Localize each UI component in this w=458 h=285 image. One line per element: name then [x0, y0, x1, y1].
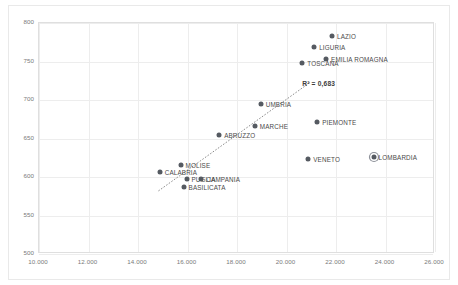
- data-point[interactable]: [312, 44, 317, 49]
- x-axis-tick-label: 20.000: [276, 258, 296, 265]
- data-point-label: MOLISE: [186, 161, 211, 168]
- data-point-label: CAMPANIA: [206, 176, 240, 183]
- y-axis-tick-label: 650: [0, 134, 34, 141]
- x-axis-tick-label: 16.000: [177, 258, 197, 265]
- data-point-label: MARCHE: [260, 123, 288, 130]
- y-axis-tick-label: 700: [0, 95, 34, 102]
- gridline-vertical: [435, 23, 436, 252]
- data-point[interactable]: [178, 162, 183, 167]
- y-axis-tick-label: 800: [0, 18, 34, 25]
- x-axis-tick-label: 24.000: [375, 258, 395, 265]
- data-point[interactable]: [157, 169, 162, 174]
- data-point-label: UMBRIA: [266, 100, 291, 107]
- x-axis-tick-label: 12.000: [78, 258, 98, 265]
- x-axis-tick-label: 14.000: [127, 258, 147, 265]
- data-point[interactable]: [181, 185, 186, 190]
- y-axis-tick-label: 550: [0, 211, 34, 218]
- data-point-label: LOMBARDIA: [379, 153, 417, 160]
- plot-area: LAZIOLIGURIAEMILIA ROMAGNATOSCANAUMBRIAP…: [38, 22, 434, 253]
- y-axis-tick-label: 500: [0, 249, 34, 256]
- data-point[interactable]: [252, 124, 257, 129]
- x-axis-tick-label: 22.000: [325, 258, 345, 265]
- data-point-label: PIEMONTE: [322, 119, 356, 126]
- data-point[interactable]: [217, 133, 222, 138]
- data-point-label: CALABRIA: [165, 168, 197, 175]
- data-point[interactable]: [184, 177, 189, 182]
- data-point[interactable]: [371, 154, 376, 159]
- gridline-horizontal: [39, 254, 433, 255]
- data-point[interactable]: [306, 157, 311, 162]
- data-point-label: LIGURIA: [319, 43, 345, 50]
- data-point-label: TOSCANA: [307, 60, 338, 67]
- data-point[interactable]: [315, 120, 320, 125]
- data-point-label: ABRUZZO: [224, 132, 255, 139]
- data-point[interactable]: [330, 34, 335, 39]
- y-axis-tick-label: 600: [0, 172, 34, 179]
- data-point[interactable]: [300, 61, 305, 66]
- r-squared-annotation: R² = 0,683: [302, 80, 335, 87]
- data-point-label: VENETO: [313, 156, 340, 163]
- x-axis-tick-label: 10.000: [28, 258, 48, 265]
- data-point[interactable]: [258, 101, 263, 106]
- data-point-label: LAZIO: [337, 33, 356, 40]
- scatter-chart-figure: 500550600650700750800 10.00012.00014.000…: [0, 0, 458, 285]
- x-axis-tick-label: 18.000: [226, 258, 246, 265]
- data-point[interactable]: [199, 177, 204, 182]
- data-point-label: EMILIA ROMAGNA: [331, 56, 388, 63]
- y-axis-tick-label: 750: [0, 57, 34, 64]
- x-axis-tick-label: 26.000: [424, 258, 444, 265]
- data-point-label: BASILICATA: [189, 184, 226, 191]
